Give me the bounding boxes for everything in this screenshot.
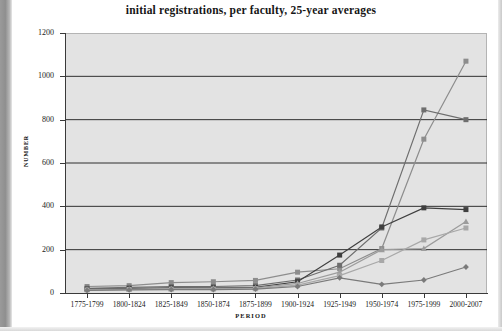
data-point-marker xyxy=(295,270,300,275)
x-tick-label: 2000-2007 xyxy=(434,300,498,309)
y-tick-mark xyxy=(60,206,65,207)
data-point-marker xyxy=(463,117,468,122)
series-line xyxy=(87,228,466,290)
data-point-marker xyxy=(421,237,426,242)
data-point-marker xyxy=(421,205,426,210)
data-point-marker xyxy=(379,281,385,287)
x-tick-mark xyxy=(298,294,299,298)
scan-edge-right xyxy=(498,0,502,331)
data-point-marker xyxy=(253,278,258,283)
x-tick-mark xyxy=(340,294,341,298)
series-line xyxy=(87,110,466,288)
data-point-marker xyxy=(463,207,468,212)
x-axis-title: PERIOD xyxy=(0,312,502,319)
y-tick-mark xyxy=(60,76,65,77)
scan-edge-bottom xyxy=(0,327,502,331)
data-point-marker xyxy=(211,279,216,284)
data-point-marker xyxy=(463,226,468,231)
data-point-marker xyxy=(463,59,468,64)
y-tick-mark xyxy=(60,33,65,34)
data-point-marker xyxy=(337,263,342,268)
data-point-marker xyxy=(463,264,469,270)
plot-area xyxy=(66,33,487,293)
chart-canvas xyxy=(66,33,487,293)
y-tick-mark xyxy=(60,120,65,121)
x-tick-mark xyxy=(87,294,88,298)
y-tick-label: 0 xyxy=(18,288,54,297)
series-line xyxy=(87,222,466,290)
x-tick-mark xyxy=(171,294,172,298)
data-point-marker xyxy=(421,277,427,283)
series-series-2 xyxy=(85,107,469,290)
x-tick-mark xyxy=(382,294,383,298)
page-canvas: initial registrations, per faculty, 25-y… xyxy=(0,0,502,331)
x-tick-mark xyxy=(255,294,256,298)
y-tick-label: 1200 xyxy=(18,28,54,37)
data-point-marker xyxy=(379,258,384,263)
y-axis-line xyxy=(65,33,66,294)
data-point-marker xyxy=(421,107,426,112)
x-tick-mark xyxy=(213,294,214,298)
x-tick-mark xyxy=(466,294,467,298)
chart-title: initial registrations, per faculty, 25-y… xyxy=(0,4,502,16)
series-line xyxy=(87,61,466,286)
y-tick-label: 200 xyxy=(18,245,54,254)
x-tick-mark xyxy=(129,294,130,298)
data-point-marker xyxy=(379,224,384,229)
y-tick-label: 1000 xyxy=(18,71,54,80)
data-point-marker xyxy=(421,137,426,142)
x-tick-mark xyxy=(424,294,425,298)
y-tick-label: 400 xyxy=(18,201,54,210)
data-point-marker xyxy=(463,218,469,224)
y-tick-mark xyxy=(60,293,65,294)
data-point-marker xyxy=(337,253,342,258)
scan-edge-left xyxy=(0,0,12,331)
y-tick-mark xyxy=(60,250,65,251)
series-series-1 xyxy=(85,59,469,289)
y-tick-mark xyxy=(60,163,65,164)
y-axis-title: NUMBER xyxy=(23,121,29,181)
